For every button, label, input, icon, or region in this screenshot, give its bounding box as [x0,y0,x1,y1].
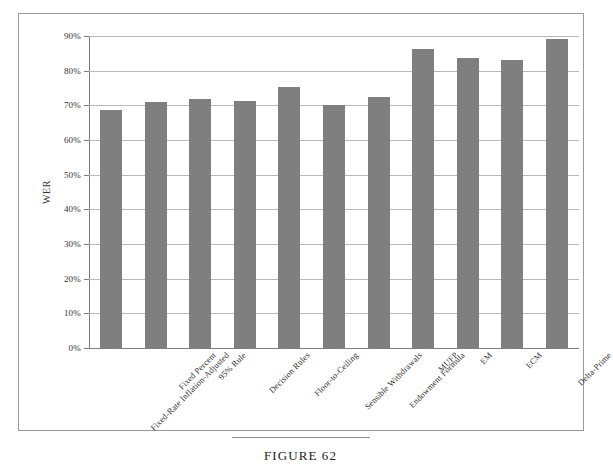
bar [278,87,300,348]
x-tick [423,345,424,349]
y-tick-90% [84,36,89,37]
x-tick [245,345,246,349]
y-tick-30% [84,244,89,245]
bar [501,60,523,348]
y-tick-10% [84,313,89,314]
bar [234,101,256,348]
y-tick-40% [84,209,89,210]
bar [100,110,122,349]
bar [189,99,211,348]
bar [323,105,345,348]
figure-caption: FIGURE 62 [0,448,601,464]
y-axis-label: 50% [64,170,81,180]
caption-divider [232,437,370,438]
x-tick [200,345,201,349]
y-axis-line [89,36,90,348]
x-tick [289,345,290,349]
x-axis-label: ECM [524,350,544,370]
bar [145,102,167,348]
y-tick-20% [84,279,89,280]
x-tick [111,345,112,349]
x-tick [512,345,513,349]
y-axis-title: WER [41,180,52,204]
plot-area: 0%10%20%30%40%50%60%70%80%90% [89,36,579,348]
y-axis-label: 20% [64,274,81,284]
y-tick-0% [84,348,89,349]
y-tick-50% [84,175,89,176]
x-axis-label: EM [477,350,493,366]
y-axis-label: 10% [64,308,81,318]
y-tick-80% [84,71,89,72]
x-tick [156,345,157,349]
bar [368,97,390,348]
y-axis-label: 90% [64,31,81,41]
y-axis-label: 70% [64,100,81,110]
y-tick-60% [84,140,89,141]
x-tick [379,345,380,349]
y-axis-label: 80% [64,66,81,76]
figure-border: WER 0%10%20%30%40%50%60%70%80%90% Fixed-… [18,13,584,431]
x-axis-label: Delta-Prime [575,350,613,388]
gridline-90% [89,36,579,37]
y-tick-70% [84,105,89,106]
y-axis-label: 30% [64,239,81,249]
x-axis-label: Floor-to-Ceiling [312,350,360,398]
y-axis-label: 40% [64,204,81,214]
x-axis-label: Decision Rules [267,350,312,395]
x-tick [334,345,335,349]
y-axis-label: 60% [64,135,81,145]
bar [457,58,479,348]
bar [546,39,568,348]
x-axis-tick-labels: Fixed-Rate Inflation-AdjustedFixed Perce… [89,350,579,422]
y-axis-label: 0% [69,343,81,353]
bar [412,49,434,348]
x-tick [468,345,469,349]
x-axis-label: Fixed-Rate Inflation-Adjusted [149,350,232,433]
x-tick [557,345,558,349]
